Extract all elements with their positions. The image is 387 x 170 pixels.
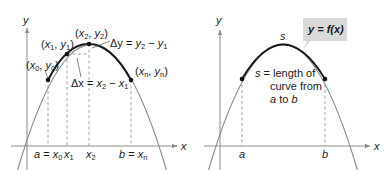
- left-diagram: y x (x0, y0) (x1, y1) (x2, y2) (xn, yn: [11, 14, 187, 170]
- delta-y-label: Δy = y2 − y1: [110, 37, 167, 51]
- label-x2-y2: (x2, y2): [75, 27, 108, 41]
- tick-a-x0: a = x0: [34, 148, 62, 162]
- tick-x1: x1: [63, 148, 74, 162]
- tick-b: b: [322, 148, 328, 160]
- point-a: [240, 77, 245, 82]
- tick-b-xn: b = xn: [119, 148, 147, 162]
- right-y-axis-label: y: [215, 14, 223, 26]
- tick-a: a: [239, 148, 245, 160]
- delta-x-leader: [77, 58, 81, 77]
- right-curve-full: [208, 44, 358, 170]
- point-b: [323, 77, 328, 82]
- callout-pointer: [303, 40, 311, 50]
- point-x0-y0: [46, 78, 51, 83]
- tick-x2: x2: [85, 148, 96, 162]
- description-line-1: s = length of: [255, 67, 316, 79]
- point-xn-yn: [129, 78, 134, 83]
- left-x-axis-label: x: [180, 140, 187, 152]
- point-x2-y2: [87, 42, 92, 47]
- delta-x-label: Δx = x2 − x1: [71, 77, 128, 91]
- label-x0-y0: (x0, y0): [26, 59, 59, 73]
- label-x1-y1: (x1, y1): [41, 38, 74, 52]
- left-y-axis-label: y: [22, 14, 30, 26]
- callout-label: y = f(x): [307, 23, 344, 35]
- x0-leader: [45, 70, 48, 79]
- right-diagram: y x y = f(x) s s = length of curve from …: [204, 14, 380, 170]
- arc-label-s: s: [280, 30, 286, 42]
- description-line-2: curve from: [270, 80, 322, 92]
- right-x-axis-label: x: [373, 140, 380, 152]
- point-x1-y1: [65, 52, 70, 57]
- description-line-3: a to b: [270, 93, 298, 105]
- label-xn-yn: (xn, yn): [135, 65, 168, 79]
